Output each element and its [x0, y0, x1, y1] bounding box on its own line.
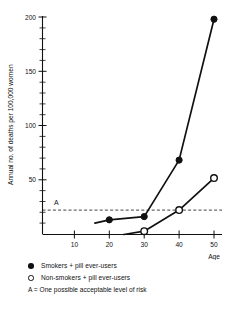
- filled-circle-icon: [28, 263, 41, 269]
- legend-item-nonsmokers: Non-smokers + pill ever-users: [28, 272, 228, 284]
- legend-label-reference: A = One possible acceptable level of ris…: [28, 284, 147, 296]
- legend-item-reference: A = One possible acceptable level of ris…: [28, 284, 228, 296]
- legend-label-nonsmokers: Non-smokers + pill ever-users: [41, 272, 130, 284]
- series-line-smokers: [95, 19, 214, 223]
- legend-item-smokers: Smokers + pill ever-users: [28, 260, 228, 272]
- open-circle-icon: [28, 275, 41, 281]
- x-tick-label-30: 30: [141, 241, 149, 248]
- x-tick-label-10: 10: [71, 241, 79, 248]
- x-tick-label-40: 40: [175, 241, 183, 248]
- chart-legend: Smokers + pill ever-users Non-smokers + …: [28, 260, 228, 296]
- reference-line-label: A: [54, 199, 59, 206]
- y-axis-title: Annual no. of deaths per 100,000 women: [7, 64, 15, 185]
- legend-label-smokers: Smokers + pill ever-users: [41, 260, 117, 272]
- y-tick-label-200: 200: [25, 14, 36, 21]
- x-tick-label-50: 50: [210, 241, 218, 248]
- y-tick-label-150: 150: [25, 68, 36, 75]
- chart-svg: 200 150 100 50 Annual no. of deaths per …: [0, 0, 234, 260]
- y-tick-label-50: 50: [29, 176, 37, 183]
- series-markers-smokers: [106, 16, 217, 223]
- x-tick-label-20: 20: [106, 241, 114, 248]
- series-line-nonsmokers: [124, 178, 214, 234]
- x-axis-title: Age: [208, 253, 220, 260]
- y-tick-label-100: 100: [25, 122, 36, 129]
